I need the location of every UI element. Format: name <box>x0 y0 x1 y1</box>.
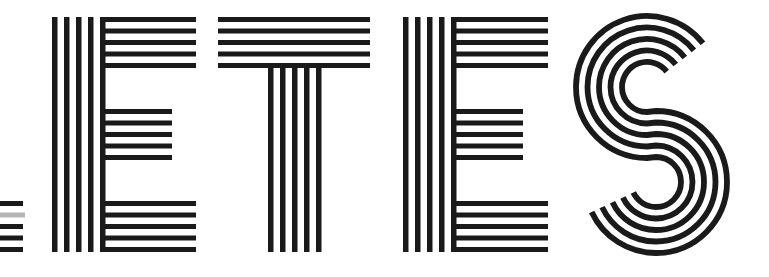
stripe <box>100 132 172 137</box>
letter-fragment-left <box>0 201 25 252</box>
stripe <box>100 63 196 68</box>
stripe <box>76 17 82 252</box>
stripe <box>0 236 23 241</box>
stripe <box>100 144 172 149</box>
stripe <box>52 17 58 252</box>
stripe <box>304 68 310 252</box>
stripe <box>100 236 196 241</box>
stripe <box>451 40 548 45</box>
stripe <box>451 224 548 229</box>
stripe <box>0 247 23 252</box>
stripe <box>100 224 196 229</box>
stripe <box>0 224 23 229</box>
stripe <box>100 52 196 57</box>
stripe <box>218 40 370 45</box>
stripe <box>316 68 322 252</box>
stripe <box>451 29 548 34</box>
stripe <box>64 17 70 252</box>
stripe <box>100 29 196 34</box>
stripe <box>100 247 196 252</box>
stripe <box>218 63 370 68</box>
stripe <box>451 121 523 126</box>
stripe <box>218 52 370 57</box>
stripe <box>100 17 196 22</box>
stripe <box>218 17 370 22</box>
stripe <box>280 68 286 252</box>
stripe <box>292 68 298 252</box>
letter-e-second <box>403 17 548 252</box>
stripe <box>451 109 523 114</box>
stripe <box>100 121 172 126</box>
stripe <box>451 132 523 137</box>
letter-s <box>576 16 727 253</box>
stripe <box>100 40 196 45</box>
stripe <box>100 213 196 218</box>
stripe <box>100 109 172 114</box>
stripe <box>451 17 548 22</box>
stripe <box>451 247 548 252</box>
stripe <box>451 213 548 218</box>
stripe <box>415 17 421 252</box>
letter-e-first <box>52 17 196 252</box>
stripe <box>268 68 274 252</box>
stripe <box>100 201 196 206</box>
stripe <box>427 17 433 252</box>
stripe <box>451 236 548 241</box>
stripe <box>439 17 445 252</box>
stripe <box>451 144 523 149</box>
stripe <box>451 63 548 68</box>
stripe <box>100 155 172 160</box>
stripe <box>218 29 370 34</box>
stripe <box>88 17 94 252</box>
stripe <box>403 17 409 252</box>
stripe <box>0 213 25 218</box>
stripe <box>451 155 523 160</box>
stripe <box>451 201 548 206</box>
stripe <box>0 201 23 206</box>
stripe <box>451 52 548 57</box>
striped-lettering-artwork <box>0 0 769 277</box>
letter-t <box>218 17 370 252</box>
